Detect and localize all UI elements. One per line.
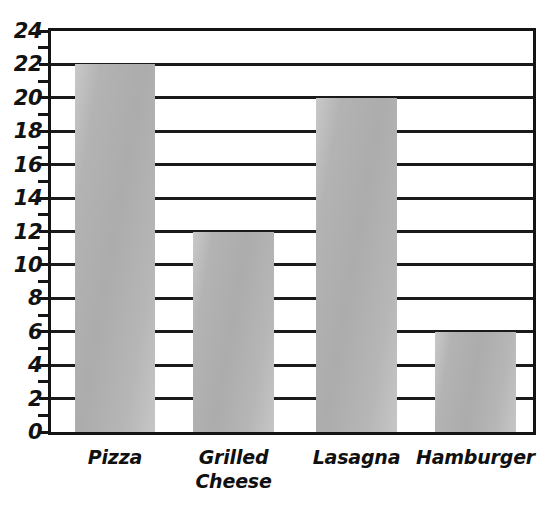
plot-area xyxy=(48,28,536,435)
bars-layer xyxy=(51,31,533,432)
y-tick-label: 10 xyxy=(14,254,42,275)
bar xyxy=(75,64,155,432)
bar xyxy=(193,232,274,433)
y-tick-label: 22 xyxy=(14,54,42,75)
x-axis-labels: PizzaGrilled CheeseLasagnaHamburger xyxy=(48,446,536,516)
y-tick-label: 6 xyxy=(28,321,42,342)
y-tick-label: 16 xyxy=(14,154,42,175)
x-axis-label: Hamburger xyxy=(396,446,555,470)
y-tick-label: 4 xyxy=(28,355,42,376)
y-tick-label: 12 xyxy=(14,221,42,242)
bar xyxy=(435,332,516,432)
y-tick-label: 14 xyxy=(14,188,42,209)
y-tick-label: 18 xyxy=(14,121,42,142)
bar-chart: 024681012141618202224 PizzaGrilled Chees… xyxy=(0,0,555,524)
y-tick-label: 24 xyxy=(14,21,42,42)
y-tick-label: 20 xyxy=(14,87,42,108)
y-tick-label: 8 xyxy=(28,288,42,309)
y-tick-label: 0 xyxy=(28,422,42,443)
y-tick-label: 2 xyxy=(28,388,42,409)
bar xyxy=(316,98,397,432)
